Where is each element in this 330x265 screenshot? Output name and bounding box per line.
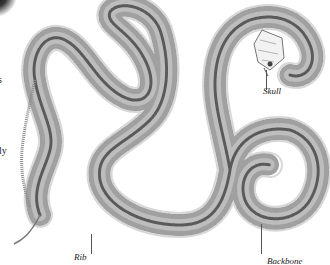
skull-label: Skull <box>263 86 281 96</box>
backbone-leader-line <box>261 224 262 254</box>
snake-skeleton-illustration <box>0 0 330 265</box>
rib-label: Rib <box>74 252 87 262</box>
figure-canvas: s ly <box>0 0 330 265</box>
rib-leader-line <box>91 234 92 254</box>
backbone-label: Backbone <box>267 256 302 265</box>
